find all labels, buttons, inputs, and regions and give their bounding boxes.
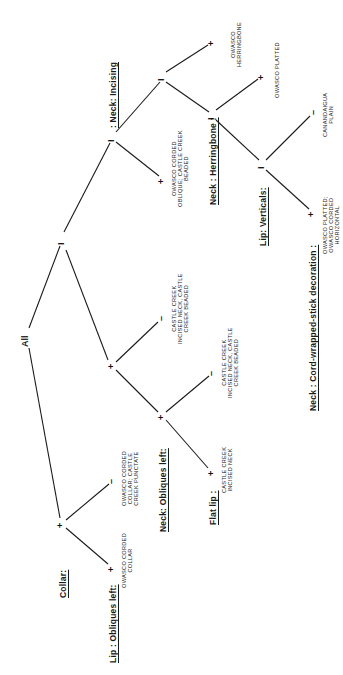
heading-lip-verticals: Lip: Verticals: — [258, 187, 268, 246]
leaf-owasco-herringbone: OWASCO HERRINGBONE — [230, 22, 242, 67]
present-node-collar: + — [56, 523, 65, 528]
leaf-owasco-corded-collar-punctate: OWASCO CORDED COLLAR; CASTLE CREEK PUNCT… — [121, 451, 140, 506]
present-node-neck-obliques-left: + — [157, 415, 166, 420]
split-node-upper: I — [157, 78, 166, 81]
absent-node-collar-punctate: – — [107, 479, 116, 484]
present-node-lower: + — [107, 364, 116, 369]
edge — [29, 246, 60, 328]
leaf-castle-creek-incised-neck: CASTLE CREEK INCISED NECK — [221, 447, 233, 493]
edge — [116, 82, 160, 132]
present-node-owasco-herringbone: + — [207, 41, 216, 46]
present-node-owasco-corded-collar: + — [107, 567, 116, 572]
edge — [216, 79, 258, 110]
present-node-flat-lip: + — [207, 471, 216, 476]
split-node-main: I — [57, 242, 66, 245]
absent-node-canandaigua: – — [309, 110, 318, 115]
heading-neck-cord-wrapped-stick: Neck : Cord-wrapped-stick decoration : — [308, 245, 318, 411]
heading-collar: Collar: — [58, 570, 68, 598]
edge — [266, 170, 309, 209]
edge — [64, 143, 110, 232]
heading-flat-lip: Flat lip : — [208, 490, 218, 525]
leaf-canandaigua-plain: CANANDAIGUA PLAIN — [322, 93, 334, 137]
edge — [116, 370, 158, 412]
present-node-platted-corded-horizontal: + — [307, 212, 316, 217]
edge — [216, 120, 259, 160]
split-node-neck-incising: I — [107, 139, 116, 142]
present-node-owasco-platted: + — [257, 75, 266, 80]
heading-lip-obliques-left: Lip : Obliques left: — [108, 584, 118, 663]
edge — [29, 348, 60, 518]
absent-node-castle-creek-upper: – — [157, 316, 166, 321]
edge — [66, 528, 108, 564]
edge — [166, 376, 209, 412]
edge — [116, 142, 159, 176]
absent-node-castle-creek-lower: – — [207, 371, 216, 376]
classification-tree-diagram: All I I I + I + I – + + + – + – + + – + … — [0, 0, 343, 675]
edge — [166, 82, 209, 112]
heading-neck-incising: : Neck: Incising — [108, 62, 118, 128]
leaf-owasco-corded-collar: OWASCO CORDED COLLAR — [121, 533, 133, 588]
heading-neck-obliques-left: Neck: Obliques left: — [158, 448, 168, 532]
edge — [66, 250, 108, 360]
edge — [166, 420, 208, 468]
edge — [66, 484, 109, 520]
edge — [166, 45, 208, 72]
split-node-lip-verticals: I — [257, 166, 266, 169]
leaf-owasco-corded-oblique: OWASCO CORDED OBLIQUE; CASTLE CREEK BEAD… — [171, 130, 190, 207]
root-node-all: All — [20, 335, 30, 347]
leaf-owasco-platted-corded-horizontal: OWASCO PLATTED; OWASCO CORDED HORIZONTAL — [322, 196, 341, 254]
heading-neck-herringbone: Neck : Herringbone : — [208, 117, 218, 205]
leaf-castle-creek-incised-neck-beaded-lower: CASTLE CREEK INCISED NECK, CASTLE CREEK … — [221, 327, 240, 398]
edge — [116, 322, 158, 362]
leaf-castle-creek-incised-neck-beaded-upper: CASTLE CREEK INCISED NECK, CASTLE CREEK … — [171, 273, 190, 344]
present-node-owasco-corded-oblique: + — [157, 179, 166, 184]
leaf-owasco-platted: OWASCO PLATTED — [274, 42, 280, 98]
edge — [266, 116, 310, 160]
